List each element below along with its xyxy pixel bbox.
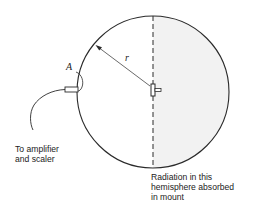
hemisphere-label-line2: hemisphere absorbed (151, 182, 234, 192)
absorbed-hemisphere (153, 16, 229, 168)
diagram-canvas (0, 0, 255, 207)
amplifier-label-line1: To amplifier (15, 144, 59, 154)
detector (65, 87, 78, 92)
point-a-label: A (66, 62, 72, 72)
hemisphere-label-line1: Radiation in this (151, 172, 212, 182)
radius-label: r (125, 53, 129, 63)
hemisphere-label-line3: in mount (151, 192, 184, 202)
source-stem (155, 89, 161, 92)
radius-arrowhead-icon (96, 45, 103, 51)
amplifier-label-line2: and scaler (15, 154, 55, 164)
amplifier-cable (31, 90, 66, 131)
source-holder (151, 84, 155, 96)
radius-line (98, 47, 150, 86)
